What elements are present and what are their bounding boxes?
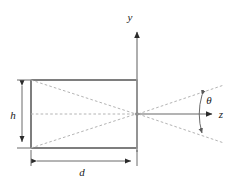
height-dimension bbox=[17, 80, 30, 148]
y-axis-label: y bbox=[127, 11, 133, 23]
left-cone-rays bbox=[31, 80, 136, 148]
theta-label: θ bbox=[206, 94, 212, 106]
z-axis-label: z bbox=[218, 108, 224, 120]
ray-lower-right bbox=[138, 114, 224, 143]
height-label: h bbox=[10, 109, 16, 121]
diagram-canvas: y z h d θ bbox=[0, 0, 236, 179]
depth-label: d bbox=[79, 166, 85, 178]
ray-top-left bbox=[31, 80, 136, 114]
ray-bottom-left bbox=[31, 114, 136, 148]
geometry-diagram: y z h d θ bbox=[0, 0, 236, 179]
depth-dimension bbox=[31, 150, 137, 166]
